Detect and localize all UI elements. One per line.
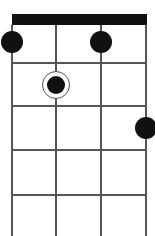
fret-line-3 <box>12 149 147 151</box>
nut <box>12 14 147 25</box>
finger-dot-icon <box>135 117 155 139</box>
string-2 <box>55 25 57 236</box>
string-3 <box>100 25 102 236</box>
finger-dot-icon <box>1 31 23 53</box>
chord-diagram <box>0 0 155 236</box>
finger-dot-icon <box>47 76 65 94</box>
string-1 <box>11 25 13 236</box>
finger-dot-icon <box>90 31 112 53</box>
fret-line-1 <box>12 62 147 64</box>
fret-line-4 <box>12 194 147 196</box>
fret-line-2 <box>12 105 147 107</box>
